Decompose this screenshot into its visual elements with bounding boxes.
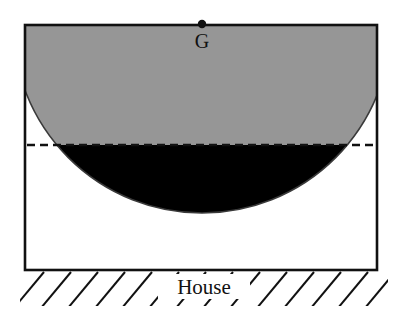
physics-diagram: G House	[0, 0, 408, 331]
ground-label: House	[177, 275, 231, 299]
point-g-label: G	[195, 30, 209, 52]
point-g-marker	[198, 20, 206, 28]
figure-root: G House	[0, 0, 408, 331]
